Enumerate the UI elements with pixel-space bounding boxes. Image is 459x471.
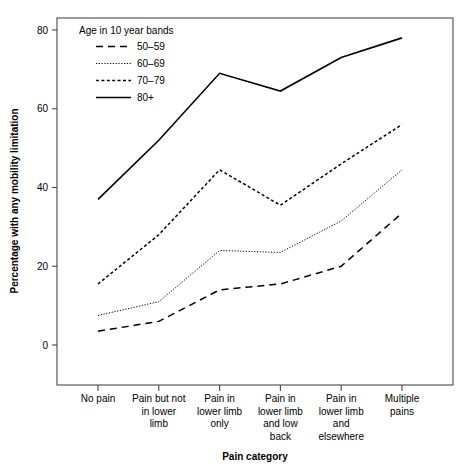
- legend-label-7079: 70–79: [137, 75, 165, 86]
- plot-frame: [57, 18, 453, 385]
- x-tick-label: and low: [263, 418, 298, 429]
- legend-label-80+: 80+: [137, 92, 154, 103]
- series-line-6069: [98, 170, 402, 316]
- x-tick-labels: No painPain but notin lowerlimbPain inlo…: [81, 393, 420, 442]
- x-tick-label: No pain: [81, 393, 115, 404]
- x-tick-label: Pain in: [265, 393, 296, 404]
- legend-entries: 50–5960–6970–7980+: [96, 41, 165, 103]
- y-tick-label: 0: [42, 340, 48, 351]
- x-tick-label: lower limb: [197, 406, 242, 417]
- x-tick-label: in lower: [142, 406, 177, 417]
- legend-label-5059: 50–59: [137, 41, 165, 52]
- x-axis-title: Pain category: [222, 451, 288, 462]
- line-chart-svg: 020406080 No painPain but notin lowerlim…: [0, 0, 459, 471]
- x-tick-label: Pain but not: [132, 393, 186, 404]
- x-tick-label: elsewhere: [318, 431, 364, 442]
- series-line-5059: [98, 213, 402, 331]
- x-axis: [98, 385, 402, 391]
- x-tick-label: Multiple: [385, 393, 420, 404]
- chart-figure: 020406080 No painPain but notin lowerlim…: [0, 0, 459, 471]
- legend-label-6069: 60–69: [137, 58, 165, 69]
- x-tick-label: lower limb: [319, 406, 364, 417]
- y-tick-label: 40: [37, 182, 49, 193]
- x-tick-label: lower limb: [258, 406, 303, 417]
- legend: Age in 10 year bands 50–5960–6970–7980+: [79, 25, 174, 103]
- y-tick-label: 80: [37, 25, 49, 36]
- x-tick-label: Pain in: [204, 393, 235, 404]
- x-tick-label: only: [210, 418, 228, 429]
- y-axis-title: Percentage with any mobility limitation: [9, 108, 20, 293]
- legend-title: Age in 10 year bands: [79, 25, 174, 36]
- x-tick-label: limb: [150, 418, 169, 429]
- series-line-7079: [98, 125, 402, 284]
- x-tick-label: back: [270, 431, 292, 442]
- x-tick-label: and: [333, 418, 350, 429]
- y-axis: 020406080: [37, 25, 57, 351]
- y-tick-label: 60: [37, 103, 49, 114]
- y-tick-label: 20: [37, 261, 49, 272]
- x-tick-label: pains: [390, 406, 414, 417]
- x-tick-label: Pain in: [326, 393, 357, 404]
